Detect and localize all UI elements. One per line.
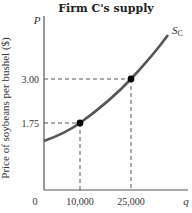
x-axis-label: q <box>183 195 189 207</box>
supply-curve <box>44 35 168 141</box>
x-tick-10000: 10,000 <box>66 196 94 207</box>
x-tick-25000: 25,000 <box>117 196 145 207</box>
point-25000-3.00 <box>128 76 135 83</box>
supply-chart: Firm C's supply P q Price of soybeans pe… <box>0 0 192 213</box>
chart-title: Firm C's supply <box>58 2 154 15</box>
y-axis-symbol: P <box>33 14 41 26</box>
curve-label: SC <box>172 24 183 38</box>
point-10000-1.75 <box>77 120 84 127</box>
x-tick-0: 0 <box>33 196 38 207</box>
y-axis-label: Price of soybeans per bushel ($) <box>0 37 12 179</box>
y-tick-1.75: 1.75 <box>22 118 40 129</box>
y-tick-3.00: 3.00 <box>22 74 40 85</box>
